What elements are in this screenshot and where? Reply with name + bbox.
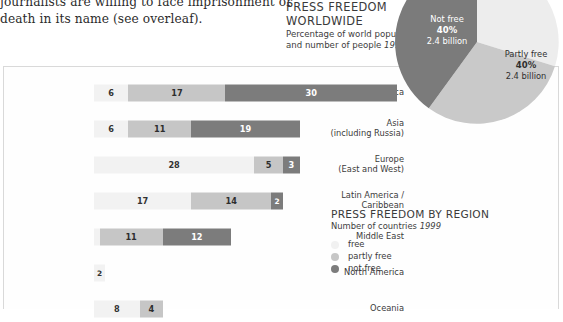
bar-row: Europe(East and West)2853 <box>4 147 404 183</box>
bar-segment-value: 8 <box>114 305 120 313</box>
pie-label-not-free-name: Not free <box>411 14 483 25</box>
bar-segment-partly: 11 <box>128 121 191 138</box>
stacked-bar: 61119 <box>94 121 300 138</box>
bar-row-label: Europe(East and West) <box>318 155 404 174</box>
pie-label-not-free-percent: 40% <box>437 25 457 35</box>
bar-segment-notfree: 2 <box>271 193 282 210</box>
bar-segment-value: 6 <box>108 89 114 97</box>
legend-item-label: partly free <box>348 252 392 260</box>
pie-label-partly-free-people: 2.4 billion <box>487 71 563 82</box>
legend-item[interactable]: not free <box>331 263 531 274</box>
pie-label-free-people: 1.2 billion <box>491 0 563 2</box>
bar-segment-free: 17 <box>94 193 191 210</box>
legend-swatch-icon <box>331 241 339 249</box>
bar-segment-free: 6 <box>94 121 128 138</box>
bar-segment-value: 11 <box>125 233 136 241</box>
bar-segment-partly: 11 <box>100 229 163 246</box>
pie-subtitle-line-2: and number of people <box>286 40 381 50</box>
pie-label-partly-free-name: Partly free <box>487 49 563 60</box>
bar-chart-legend-block: PRESS FREEDOM BY REGION Number of countr… <box>331 208 531 275</box>
stacked-bar: 84 <box>94 301 163 318</box>
bar-row: Oceania84 <box>4 291 404 322</box>
stacked-bar: 17142 <box>94 193 283 210</box>
body-copy-line-1: journalists are willing to face imprison… <box>0 0 276 11</box>
bar-segment-notfree: 12 <box>163 229 232 246</box>
bar-segment-value: 2 <box>97 269 102 276</box>
bar-segment-value: 28 <box>168 161 179 169</box>
bar-segment-value: 12 <box>191 233 202 241</box>
legend-title: PRESS FREEDOM BY REGION <box>331 208 531 221</box>
pie-label-free: Free 20% 1.2 billion <box>491 0 563 2</box>
legend-items: freepartly freenot free <box>331 239 531 274</box>
bar-row-label-line-2: (East and West) <box>318 165 404 175</box>
bar-row-label: Oceania <box>318 304 404 314</box>
stacked-bar: 2 <box>94 265 105 282</box>
bar-segment-value: 14 <box>226 197 237 205</box>
bar-segment-value: 4 <box>148 305 154 313</box>
bar-segment-value: 19 <box>240 125 251 133</box>
bar-segment-value: 3 <box>289 161 295 169</box>
bar-segment-free: 2 <box>94 265 105 282</box>
legend-subtitle: Number of countries 1999 <box>331 221 531 232</box>
bar-row-label-line-2: (including Russia) <box>318 129 404 139</box>
bar-segment-value: 6 <box>108 125 114 133</box>
pie-chart-block: PRESS FREEDOM WORLDWIDE Percentage of wo… <box>286 0 563 126</box>
bar-segment-notfree: 19 <box>191 121 300 138</box>
legend-item-label: not free <box>348 264 381 272</box>
legend-subtitle-year: 1999 <box>420 221 441 231</box>
body-copy-paragraph: journalists are willing to face imprison… <box>0 0 276 27</box>
bar-segment-partly: 5 <box>254 157 283 174</box>
stacked-bar: 11112 <box>94 229 231 246</box>
pie-label-not-free-people: 2.4 billion <box>411 36 483 47</box>
bar-segment-partly: 17 <box>128 85 225 102</box>
pie-label-not-free: Not free 40% 2.4 billion <box>411 14 483 48</box>
bar-segment-value: 5 <box>266 161 272 169</box>
pie-label-partly-free: Partly free 40% 2.4 billion <box>487 49 563 83</box>
bar-row-label-line-1: Oceania <box>318 304 404 314</box>
stacked-bar: 2853 <box>94 157 300 174</box>
bar-segment-value: 17 <box>137 197 148 205</box>
bar-segment-free: 28 <box>94 157 254 174</box>
bar-segment-partly: 4 <box>140 301 163 318</box>
legend-item-label: free <box>348 240 365 248</box>
pie-chart-graphic: Free 20% 1.2 billion Partly free 40% 2.4… <box>391 0 563 128</box>
bar-segment-value: 11 <box>154 125 165 133</box>
bar-segment-value: 17 <box>171 89 182 97</box>
body-copy-line-2: death in its name (see overleaf). <box>0 11 276 28</box>
legend-swatch-icon <box>331 253 339 261</box>
bar-segment-notfree: 3 <box>283 157 300 174</box>
bar-segment-free: 8 <box>94 301 140 318</box>
legend-item[interactable]: free <box>331 239 531 250</box>
pie-label-partly-free-percent: 40% <box>516 60 536 70</box>
legend-item[interactable]: partly free <box>331 251 531 262</box>
bar-segment-partly: 14 <box>191 193 271 210</box>
bar-segment-value: 2 <box>274 197 279 204</box>
legend-subtitle-text: Number of countries <box>331 221 417 231</box>
bar-segment-free: 6 <box>94 85 128 102</box>
legend-swatch-icon <box>331 265 339 273</box>
